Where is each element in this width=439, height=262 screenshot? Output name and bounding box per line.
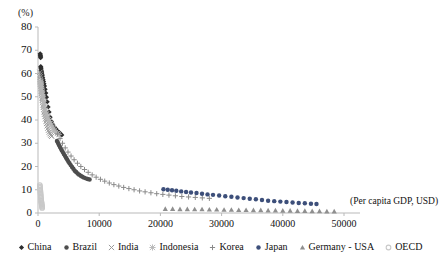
x-tick-label: 50000 [319,219,369,229]
x-tick-label: 20000 [135,219,185,229]
circle-open-marker-icon [384,243,393,252]
diamond-marker-icon [17,243,26,252]
x-axis-title: (Per capita GDP, USD) [350,196,439,207]
series-korea [55,131,212,201]
legend-item-japan[interactable]: Japan [254,242,288,252]
legend-item-korea[interactable]: Korea [208,242,243,252]
plus-marker-icon [208,243,217,252]
chart-legend: ChinaBrazilIndiaIndonesiaKoreaJapanGerma… [0,239,439,255]
y-tick-label: 40 [8,114,32,125]
y-tick-label: 20 [8,161,32,172]
legend-label: OECD [395,242,422,252]
y-tick-label: 0 [8,207,32,218]
legend-item-oecd[interactable]: OECD [384,242,422,252]
legend-item-germany-usa[interactable]: Germany - USA [298,242,375,252]
legend-item-indonesia[interactable]: Indonesia [148,242,198,252]
y-tick-label: 30 [8,137,32,148]
x-tick-label: 10000 [74,219,124,229]
legend-label: China [28,242,52,252]
triangle-marker-icon [298,243,307,252]
legend-item-china[interactable]: China [17,242,52,252]
y-tick-label: 60 [8,68,32,79]
y-tick-label: 10 [8,184,32,195]
legend-label: Germany - USA [309,242,375,252]
circle-marker-icon [254,243,263,252]
legend-label: Brazil [73,242,97,252]
y-tick-label: 80 [8,21,32,32]
legend-label: Indonesia [159,242,198,252]
series-oecd [37,183,44,210]
x-marker-icon [107,243,116,252]
x-tick-label: 0 [13,219,63,229]
legend-label: India [118,242,139,252]
legend-label: Japan [265,242,288,252]
x-tick-label: 30000 [197,219,247,229]
series-germany-usa [163,206,337,213]
y-tick-label: 70 [8,44,32,55]
legend-item-india[interactable]: India [107,242,139,252]
legend-label: Korea [219,242,243,252]
legend-item-brazil[interactable]: Brazil [62,242,97,252]
circle-marker-icon [62,243,71,252]
x-tick-label: 40000 [258,219,308,229]
star-marker-icon [148,243,157,252]
scatter-chart: (%) 01020304050607080 010000200003000040… [0,0,439,262]
series-japan [161,187,318,206]
y-tick-label: 50 [8,91,32,102]
